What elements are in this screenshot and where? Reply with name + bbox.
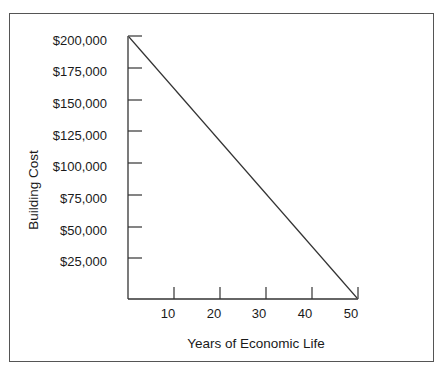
depreciation-line (129, 37, 357, 298)
y-tick-label: $200,000 (53, 33, 107, 48)
y-tick-label: $25,000 (60, 254, 107, 269)
x-tick-labels: 10 20 30 40 50 (161, 306, 358, 321)
y-ticks (128, 36, 142, 258)
y-tick-label: $150,000 (53, 96, 107, 111)
x-tick-label: 30 (252, 306, 266, 321)
y-tick-labels: $200,000 $175,000 $150,000 $125,000 $100… (53, 33, 107, 269)
y-tick-label: $50,000 (60, 223, 107, 238)
x-tick-label: 50 (344, 306, 358, 321)
y-tick-label: $75,000 (60, 191, 107, 206)
x-ticks (174, 287, 358, 299)
y-tick-label: $175,000 (53, 64, 107, 79)
y-axis-title: Building Cost (26, 150, 41, 230)
x-tick-label: 10 (161, 306, 175, 321)
y-tick-label: $100,000 (53, 159, 107, 174)
x-tick-label: 20 (207, 306, 221, 321)
x-axis-title: Years of Economic Life (187, 336, 325, 351)
depreciation-chart: $200,000 $175,000 $150,000 $125,000 $100… (0, 0, 444, 374)
y-tick-label: $125,000 (53, 128, 107, 143)
x-tick-label: 40 (298, 306, 312, 321)
